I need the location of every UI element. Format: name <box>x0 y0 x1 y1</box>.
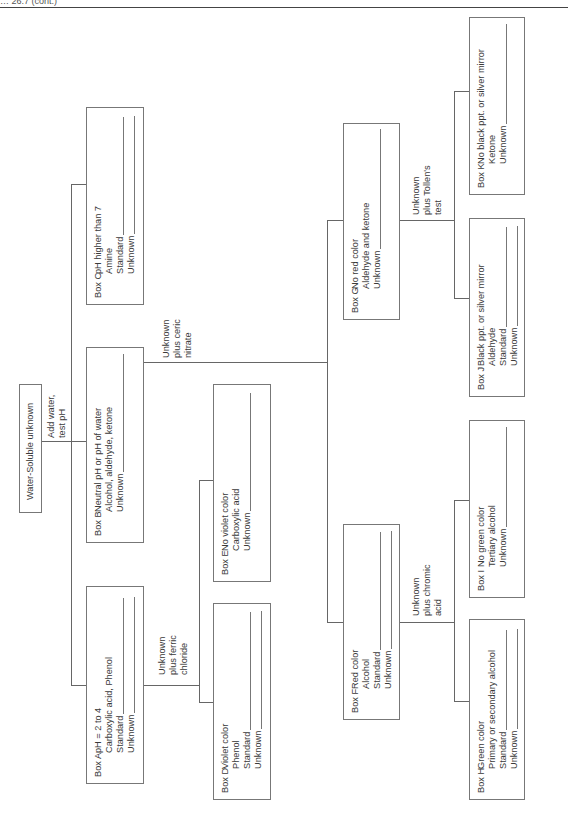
box-label: Box C <box>93 274 137 298</box>
box-i: Box I No green color Tertiary alcohol Un… <box>469 420 525 598</box>
box-label: Box D <box>220 769 264 793</box>
box-label: Box F <box>350 689 394 713</box>
answer-blank[interactable] <box>517 226 518 326</box>
box-j: Box J Black ppt. or silver mirror Aldehy… <box>469 218 525 397</box>
answer-blank[interactable] <box>517 629 518 729</box>
edge-label-add-water: Add water, test pH <box>46 395 68 438</box>
connector <box>400 220 454 221</box>
box-label: Box J <box>476 366 520 390</box>
root-label: Water-Soluble unknown <box>25 403 35 500</box>
answer-blank[interactable] <box>380 129 381 249</box>
connector <box>144 362 327 363</box>
answer-blank[interactable] <box>250 393 251 511</box>
box-e: Box E No violet color Carboxylic acid Un… <box>213 384 271 582</box>
answer-blank[interactable] <box>261 611 262 729</box>
connector <box>327 220 328 622</box>
box-b: Box B Neutral pH or pH of water Alcohol,… <box>86 347 144 543</box>
edge-label-tollens: Unknown plus Tollen's test <box>411 165 444 215</box>
connector <box>199 480 200 702</box>
connector <box>199 480 213 481</box>
connector <box>327 220 343 221</box>
answer-blank[interactable] <box>506 227 507 327</box>
connector <box>144 685 199 686</box>
box-label: Box B <box>93 512 126 536</box>
connector <box>454 91 470 92</box>
answer-blank[interactable] <box>506 427 507 527</box>
connector <box>71 184 72 685</box>
answer-blank[interactable] <box>134 597 135 713</box>
connector <box>454 701 469 702</box>
connector <box>71 184 87 185</box>
box-label: Box E <box>220 551 253 575</box>
box-label: Box A <box>93 753 137 777</box>
answer-blank[interactable] <box>123 598 124 714</box>
answer-blank[interactable] <box>506 24 507 124</box>
box-label: Box K <box>476 164 509 188</box>
page-header-text: … 26.7 (cont.) <box>0 0 57 6</box>
answer-blank[interactable] <box>250 612 251 730</box>
box-label: Box I <box>476 567 509 591</box>
box-g: Box G No red color Aldehyde and ketone U… <box>343 123 400 320</box>
connector <box>454 91 455 298</box>
answer-blank[interactable] <box>506 630 507 730</box>
connector <box>454 500 455 701</box>
box-label: Box G <box>350 289 383 313</box>
answer-blank[interactable] <box>123 117 124 235</box>
box-a: Box A pH = 2 to 4 Carboxylic acid, Pheno… <box>86 586 144 784</box>
connector <box>71 685 86 686</box>
box-d: Box D Violet color Phenol Standard Unkno… <box>213 603 271 800</box>
header-rule <box>0 7 568 8</box>
connector <box>327 622 343 623</box>
connector <box>454 298 470 299</box>
connector <box>454 500 469 501</box>
answer-blank[interactable] <box>134 116 135 234</box>
box-h: Box H Green color Primary or secondary a… <box>469 619 525 800</box>
root-box: Water-Soluble unknown <box>19 384 42 513</box>
answer-blank[interactable] <box>123 354 124 472</box>
connector <box>41 441 86 442</box>
edge-label-ferric: Unknown plus ferric chloride <box>157 635 190 675</box>
box-f: Box F Red color Alcohol Standard Unknown <box>343 524 400 720</box>
edge-label-chromic: Unknown plus chromic acid <box>411 564 444 616</box>
connector <box>199 702 213 703</box>
answer-blank[interactable] <box>391 531 392 649</box>
box-c: Box C pH higher than 7 Amine Standard Un… <box>86 107 144 305</box>
box-k: Box K No black ppt. or silver mirror Ket… <box>469 17 525 195</box>
connector <box>400 622 454 623</box>
answer-blank[interactable] <box>380 532 381 650</box>
edge-label-ceric: Unknown plus ceric nitrate <box>161 319 194 358</box>
box-label: Box H <box>476 769 520 793</box>
